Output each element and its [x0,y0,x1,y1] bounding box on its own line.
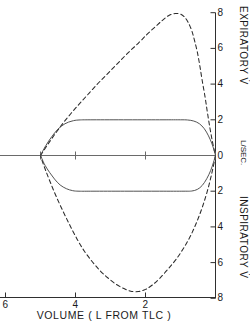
y-tick-label: 2 [218,186,224,196]
y-tick-label: 4 [218,222,224,232]
y-tick-label: 0 [218,151,224,161]
y-axis-label-inspiratory: INSPIRATORY V̇ [238,196,249,278]
y-axis-label-units: L/SEC. [239,140,248,165]
flow-volume-loop-figure: EXPIRATORY V̇ L/SEC. INSPIRATORY V̇ VOLU… [0,0,250,329]
chart-canvas [0,0,250,329]
data-series-group [41,14,216,292]
y-tick-label: 6 [218,258,224,268]
y-tick-label: 2 [218,115,224,125]
axes-group [0,13,216,299]
y-tick-label: 4 [218,79,224,89]
x-tick-label: 4 [73,300,79,310]
y-tick-label: 8 [218,293,224,303]
x-tick-label: 6 [3,300,9,310]
y-tick-label: 8 [218,8,224,18]
maximal-flow-volume-loop-expiratory-limb [41,14,216,156]
y-axis-label-expiratory: EXPIRATORY V̇ [238,6,249,85]
x-axis-label: VOLUME ( L FROM TLC ) [0,309,208,321]
x-tick-label: 2 [143,300,149,310]
y-tick-label: 6 [218,43,224,53]
tidal-breathing-loop-inspiratory-limb [41,156,216,192]
tidal-breathing-loop-expiratory-limb [41,120,216,156]
maximal-flow-volume-loop-inspiratory-limb [41,156,216,292]
